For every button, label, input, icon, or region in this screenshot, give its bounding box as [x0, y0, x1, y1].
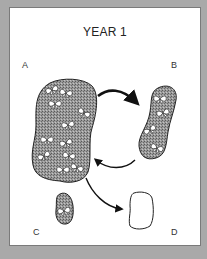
patch-b: [139, 86, 176, 159]
patch-d: [129, 192, 153, 229]
metapopulation-diagram: [0, 0, 207, 259]
patch-c: [56, 193, 73, 224]
arrow-a-to-d: [86, 178, 121, 209]
patch-a: [32, 79, 96, 182]
arrow-b-to-a: [96, 160, 135, 168]
arrow-a-to-b: [98, 91, 136, 102]
